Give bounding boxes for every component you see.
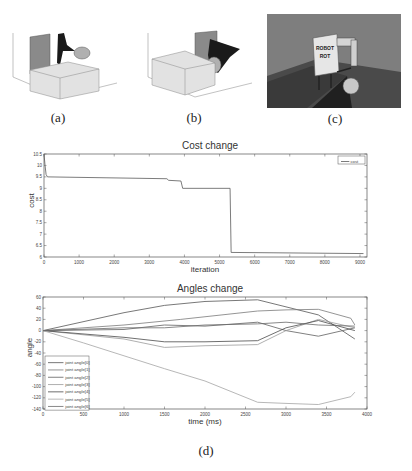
svg-text:-20: -20 — [34, 339, 41, 344]
svg-text:joint angle[3]: joint angle[3] — [64, 382, 89, 387]
svg-text:20: 20 — [36, 317, 42, 322]
svg-text:1500: 1500 — [159, 412, 170, 417]
series-line — [43, 300, 355, 339]
svg-text:-80: -80 — [34, 373, 41, 378]
svg-text:1000: 1000 — [119, 412, 130, 417]
svg-text:500: 500 — [80, 412, 88, 417]
svg-text:2500: 2500 — [240, 412, 251, 417]
svg-text:3500: 3500 — [321, 412, 332, 417]
angles-chart: 05001000150020002500300035004000-140-120… — [0, 0, 412, 471]
svg-text:3000: 3000 — [281, 412, 292, 417]
svg-text:-60: -60 — [34, 362, 41, 367]
svg-text:-140: -140 — [32, 407, 42, 412]
series-line — [43, 322, 355, 330]
svg-text:60: 60 — [36, 295, 42, 300]
svg-text:2000: 2000 — [200, 412, 211, 417]
svg-text:0: 0 — [42, 412, 45, 417]
svg-text:4000: 4000 — [362, 412, 373, 417]
svg-text:-120: -120 — [32, 395, 42, 400]
svg-text:joint angle[2]: joint angle[2] — [64, 375, 89, 380]
svg-text:joint angle[5]: joint angle[5] — [64, 397, 89, 402]
svg-text:joint angle[0]: joint angle[0] — [64, 360, 89, 365]
caption-d: (d) — [191, 443, 221, 459]
series-line — [43, 319, 355, 347]
svg-text:40: 40 — [36, 306, 42, 311]
svg-text:-100: -100 — [32, 384, 42, 389]
svg-text:0: 0 — [38, 328, 41, 333]
svg-text:joint angle[4]: joint angle[4] — [64, 389, 89, 394]
svg-text:joint angle[1]: joint angle[1] — [64, 367, 89, 372]
svg-text:joint angle[6]: joint angle[6] — [64, 404, 89, 409]
svg-text:-40: -40 — [34, 351, 41, 356]
